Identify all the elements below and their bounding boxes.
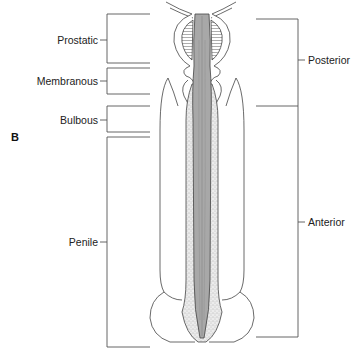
right-brackets xyxy=(256,19,305,337)
label-membranous: Membranous xyxy=(37,75,98,87)
panel-label: B xyxy=(11,131,19,143)
label-posterior: Posterior xyxy=(308,54,350,66)
anatomy-illustration xyxy=(0,0,359,351)
label-prostatic: Prostatic xyxy=(57,34,98,46)
left-brackets xyxy=(100,14,150,347)
label-penile: Penile xyxy=(69,236,98,248)
label-bulbous: Bulbous xyxy=(60,114,98,126)
label-anterior: Anterior xyxy=(308,216,345,228)
anatomy xyxy=(150,2,254,342)
urethra-anatomy-diagram: Prostatic Membranous Bulbous Penile Post… xyxy=(0,0,359,351)
